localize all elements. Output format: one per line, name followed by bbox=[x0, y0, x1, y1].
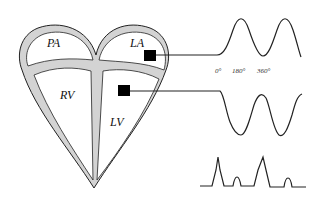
la-pressure-trace bbox=[156, 19, 301, 57]
ecg-trace bbox=[200, 157, 306, 187]
lv-sensor-icon bbox=[118, 85, 130, 96]
rv-label: RV bbox=[60, 88, 74, 103]
lv-label: LV bbox=[110, 115, 124, 130]
tick-360-deg: 360° bbox=[257, 67, 270, 75]
lv-pressure-trace bbox=[130, 91, 302, 136]
pa-label: PA bbox=[47, 36, 60, 51]
la-sensor-icon bbox=[144, 50, 156, 61]
tick-0-deg: 0° bbox=[215, 67, 221, 75]
rv-chamber bbox=[34, 68, 93, 180]
la-label: LA bbox=[130, 36, 144, 51]
heart-diagram: PA LA RV LV 0° 180° 360° bbox=[0, 0, 330, 199]
tick-180-deg: 180° bbox=[232, 67, 245, 75]
heart-svg bbox=[0, 0, 330, 199]
